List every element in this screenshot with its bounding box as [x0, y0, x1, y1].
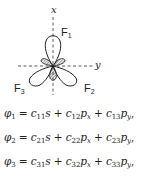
- orbital-label-f2: F2: [84, 83, 95, 95]
- hybrid-orbital-diagram: [0, 0, 144, 96]
- equation-phi-3: φ3 = c31s + c32px + c33py,: [4, 149, 144, 173]
- equations-block: φ1 = c11s + c12px + c13py, φ2 = c21s + c…: [4, 101, 144, 173]
- small-lobe-down: [50, 66, 57, 80]
- orbital-label-f3: F3: [14, 83, 25, 95]
- orbital-label-f1: F1: [61, 27, 72, 39]
- equation-phi-1: φ1 = c11s + c12px + c13py,: [4, 101, 144, 125]
- x-axis-label: x: [51, 5, 57, 15]
- y-axis-label: y: [95, 60, 101, 70]
- equation-phi-2: φ2 = c21s + c22px + c23py,: [4, 125, 144, 149]
